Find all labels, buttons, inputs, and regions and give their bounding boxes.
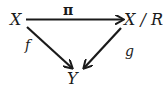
- node-y: Y: [67, 71, 78, 87]
- label-g: g: [125, 44, 134, 58]
- label-f: f: [25, 38, 30, 52]
- commutative-diagram: X X / R Y π f g: [0, 0, 168, 92]
- label-pi: π: [63, 3, 73, 17]
- arrow-f: [27, 27, 72, 68]
- node-x: X: [10, 12, 21, 28]
- arrow-g: [84, 28, 121, 68]
- node-x-mod-r: X / R: [124, 12, 163, 28]
